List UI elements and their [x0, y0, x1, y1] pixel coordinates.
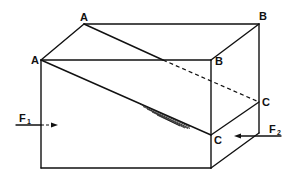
- label-a-front: A: [31, 54, 39, 66]
- shear-hatching: [140, 104, 190, 129]
- label-b-front: B: [215, 55, 223, 67]
- f1-arrowhead-icon: [51, 123, 58, 128]
- label-c-front: C: [214, 134, 222, 146]
- label-f1-sub: 1: [27, 118, 31, 125]
- plane-right-diagonal: [211, 102, 259, 135]
- box-edges: [41, 24, 259, 168]
- f2-arrowhead-icon: [234, 134, 241, 139]
- inclined-plane: [41, 24, 259, 135]
- label-f2: F: [269, 123, 276, 135]
- label-b-back: B: [259, 10, 267, 22]
- shear-box-diagram: A A B B C C F 1 F 2: [0, 0, 293, 178]
- label-a-back: A: [80, 11, 88, 23]
- label-c-back: C: [262, 96, 270, 108]
- plane-front-diagonal: [41, 60, 211, 135]
- edge-left-top: [41, 24, 84, 60]
- plane-top-solid: [84, 24, 163, 60]
- label-f2-sub: 2: [277, 129, 281, 136]
- label-f1: F: [19, 112, 26, 124]
